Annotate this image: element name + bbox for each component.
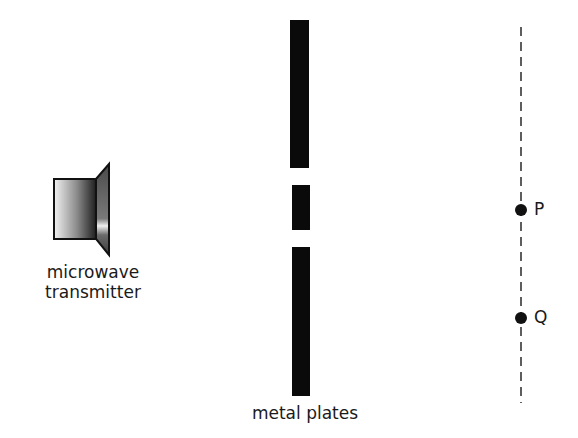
point-p-label: P <box>534 199 544 219</box>
transmitter-label-line2: transmitter <box>33 282 153 302</box>
transmitter-label: microwave transmitter <box>33 262 153 302</box>
diagram-canvas: microwave transmitter metal plates P Q <box>0 0 578 438</box>
metal-plate-middle <box>292 185 310 230</box>
microwave-transmitter-icon <box>50 160 114 260</box>
point-q-label: Q <box>534 307 547 327</box>
point-q-marker <box>515 312 527 324</box>
metal-plate-bottom <box>292 247 310 396</box>
transmitter-label-line1: microwave <box>33 262 153 282</box>
metal-plate-top <box>290 20 309 168</box>
point-p-marker <box>515 204 527 216</box>
metal-plates-label: metal plates <box>240 403 370 423</box>
